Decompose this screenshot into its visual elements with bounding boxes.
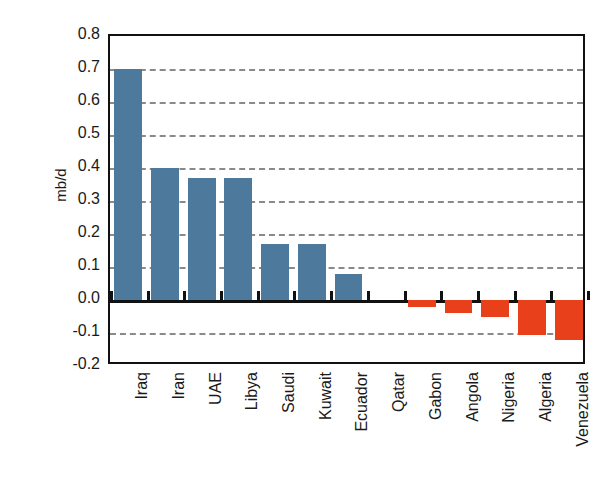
bar-chart-figure: mb/d 0.80.70.60.50.40.30.20.10.0-0.1-0.2… xyxy=(0,0,606,490)
bar-slot xyxy=(514,36,551,362)
x-label-slot: Ecuador xyxy=(328,368,365,490)
x-label-slot: Angola xyxy=(438,368,475,490)
bar-slot xyxy=(293,36,330,362)
bar[interactable] xyxy=(555,300,583,340)
y-tick-label: 0.3 xyxy=(48,190,100,208)
y-tick-label: 0.7 xyxy=(48,58,100,76)
y-tick-label: -0.1 xyxy=(48,322,100,340)
x-label-slot: Saudi xyxy=(255,368,292,490)
bar[interactable] xyxy=(114,69,142,300)
x-label-slot: Gabon xyxy=(402,368,439,490)
x-axis-category-labels: IraqIranUAELibyaSaudiKuwaitEcuadorQatarG… xyxy=(108,368,585,490)
x-tick xyxy=(550,291,553,300)
bar-slot xyxy=(330,36,367,362)
bar[interactable] xyxy=(261,244,289,300)
bar[interactable] xyxy=(298,244,326,300)
bar[interactable] xyxy=(188,178,216,300)
x-tick xyxy=(183,291,186,300)
x-tick xyxy=(587,291,590,300)
bar-slot xyxy=(110,36,147,362)
bar-slot xyxy=(257,36,294,362)
x-tick xyxy=(404,291,407,300)
x-tick xyxy=(293,291,296,300)
x-category-label: Venezuela xyxy=(575,372,591,447)
plot-area xyxy=(108,34,585,364)
bar[interactable] xyxy=(445,300,473,313)
bar[interactable] xyxy=(335,274,363,300)
x-tick xyxy=(220,291,223,300)
bar-slot xyxy=(367,36,404,362)
bar-slot xyxy=(440,36,477,362)
bar-slot xyxy=(550,36,587,362)
y-tick-label: 0.8 xyxy=(48,25,100,43)
x-label-slot: Libya xyxy=(218,368,255,490)
x-tick xyxy=(330,291,333,300)
x-label-slot: Qatar xyxy=(365,368,402,490)
x-tick xyxy=(440,291,443,300)
y-tick-label: 0.6 xyxy=(48,91,100,109)
bar[interactable] xyxy=(481,300,509,317)
bar[interactable] xyxy=(224,178,252,300)
x-label-slot: Iraq xyxy=(108,368,145,490)
x-label-slot: UAE xyxy=(181,368,218,490)
x-label-slot: Kuwait xyxy=(291,368,328,490)
y-tick-label: 0.0 xyxy=(48,289,100,307)
bar[interactable] xyxy=(151,168,179,300)
x-label-slot: Venezuela xyxy=(548,368,585,490)
x-tick xyxy=(110,291,113,300)
bar[interactable] xyxy=(518,300,546,335)
bar-slot xyxy=(404,36,441,362)
x-tick xyxy=(367,291,370,300)
y-tick-label: 0.4 xyxy=(48,157,100,175)
x-label-slot: Iran xyxy=(145,368,182,490)
x-tick xyxy=(257,291,260,300)
bar-slot xyxy=(220,36,257,362)
y-tick-label: -0.2 xyxy=(48,355,100,373)
y-tick-label: 0.5 xyxy=(48,124,100,142)
y-tick-label: 0.1 xyxy=(48,256,100,274)
x-tick xyxy=(477,291,480,300)
bar-series xyxy=(110,36,583,362)
x-label-slot: Nigeria xyxy=(475,368,512,490)
bar-slot xyxy=(147,36,184,362)
y-tick-label: 0.2 xyxy=(48,223,100,241)
x-label-slot: Algeria xyxy=(512,368,549,490)
bar-slot xyxy=(477,36,514,362)
bar[interactable] xyxy=(408,300,436,307)
bar-slot xyxy=(183,36,220,362)
x-tick xyxy=(514,291,517,300)
x-tick xyxy=(147,291,150,300)
y-axis-tick-labels: 0.80.70.60.50.40.30.20.10.0-0.1-0.2 xyxy=(36,0,100,490)
